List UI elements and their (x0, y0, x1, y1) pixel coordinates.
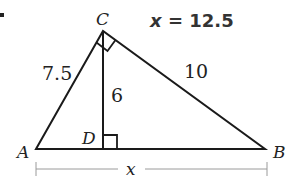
vertex-label-a: A (17, 144, 29, 161)
answer-value: 12.5 (189, 10, 233, 31)
segment-label-cd: 6 (111, 86, 123, 105)
segment-label-bc: 10 (184, 62, 208, 81)
right-angle-mark-d (103, 135, 117, 149)
segment-label-ab: x (126, 161, 136, 178)
segment-label-ac: 7.5 (42, 64, 72, 83)
answer-equals: = (162, 10, 190, 31)
vertex-label-d: D (82, 130, 96, 147)
right-triangle-diagram: C A B D 7.5 10 6 x x = 12.5 (0, 0, 292, 193)
triangle-figure (0, 0, 292, 193)
vertex-label-b: B (273, 144, 286, 161)
triangle-abc (36, 31, 265, 149)
right-angle-mark-c (97, 40, 116, 51)
vertex-label-c: C (96, 11, 109, 28)
answer-text: x = 12.5 (150, 12, 234, 30)
answer-variable: x (150, 10, 162, 31)
